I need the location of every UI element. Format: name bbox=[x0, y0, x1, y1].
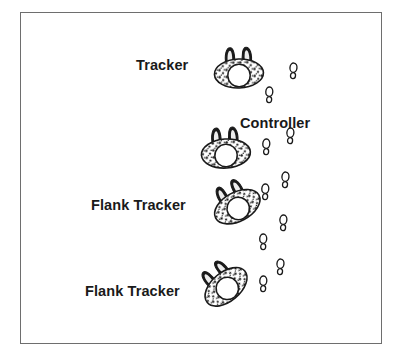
dog-figures-group bbox=[191, 47, 266, 314]
figure-root: TrackerControllerFlank TrackerFlank Trac… bbox=[0, 0, 401, 355]
label-flank-tracker-1: Flank Tracker bbox=[91, 198, 186, 213]
label-controller: Controller bbox=[240, 116, 310, 131]
label-flank-tracker-2: Flank Tracker bbox=[85, 284, 180, 299]
paw-print-icon bbox=[276, 259, 285, 275]
dog-icon bbox=[191, 251, 255, 314]
paw-print-icon bbox=[289, 63, 298, 79]
paw-print-icon bbox=[279, 215, 287, 231]
paw-print-icon bbox=[259, 276, 267, 292]
dog-icon bbox=[200, 126, 252, 170]
paw-print-icon bbox=[265, 87, 273, 103]
figure-canvas bbox=[0, 0, 401, 355]
paw-print-icon bbox=[259, 234, 267, 250]
dog-icon bbox=[203, 172, 265, 231]
paw-print-icon bbox=[281, 172, 290, 188]
paw-print-icon bbox=[262, 139, 270, 155]
paw-print-icon bbox=[261, 184, 269, 200]
dog-icon bbox=[214, 47, 264, 89]
label-tracker: Tracker bbox=[136, 58, 188, 73]
paw-print-trail-group bbox=[259, 63, 297, 292]
